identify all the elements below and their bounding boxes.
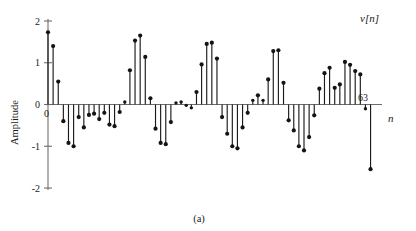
stem-marker: [194, 90, 198, 94]
stem-marker: [87, 113, 91, 117]
figure-caption: (a): [193, 213, 205, 225]
x-axis-label: n: [388, 112, 394, 124]
stem-plot-svg: 210-1-2 Amplitude n v[n] 0 63 (a): [0, 0, 416, 231]
stem-marker: [185, 104, 188, 107]
stem-marker: [205, 42, 209, 46]
stem-marker: [333, 86, 337, 90]
stem-marker: [368, 167, 372, 171]
stem-marker: [107, 122, 111, 126]
stem-marker: [112, 124, 116, 128]
stem-marker: [128, 68, 132, 72]
y-axis-label: Amplitude: [9, 100, 20, 145]
stem-marker: [164, 142, 168, 146]
stem-marker: [256, 93, 260, 97]
stem-marker: [97, 117, 101, 121]
stem-marker: [102, 111, 106, 115]
stem-marker: [220, 115, 224, 119]
stem-marker: [261, 99, 264, 102]
stem-marker: [133, 39, 137, 43]
stem-marker: [92, 112, 96, 116]
stem-marker: [317, 87, 321, 91]
stem-marker: [56, 79, 60, 83]
stem-marker: [169, 120, 173, 124]
stem-marker: [292, 128, 296, 132]
stems-group: [46, 30, 373, 171]
stem-marker: [271, 49, 275, 53]
stem-marker: [338, 82, 342, 86]
stem-marker: [266, 77, 270, 81]
stem-marker: [353, 69, 357, 73]
stem-marker: [200, 62, 204, 66]
stem-marker: [77, 115, 81, 119]
stem-marker: [297, 144, 301, 148]
stem-marker: [159, 141, 163, 145]
y-axis-tick-label: -1: [32, 141, 40, 152]
stem-marker: [215, 56, 219, 60]
stem-plot-figure: 210-1-2 Amplitude n v[n] 0 63 (a): [0, 0, 416, 231]
stem-marker: [230, 144, 234, 148]
signal-name-label: v[n]: [360, 12, 379, 24]
stem-marker: [82, 125, 86, 129]
y-axis-tick-label: 1: [35, 57, 40, 68]
y-axis-tick-label: 2: [35, 16, 40, 27]
stem-marker: [210, 41, 214, 45]
stem-marker: [118, 110, 122, 114]
stem-marker: [123, 100, 126, 103]
x-end-tick-label: 63: [358, 92, 368, 103]
stem-marker: [287, 118, 291, 122]
stem-marker: [179, 100, 182, 103]
y-axis-tick-label: -2: [32, 183, 40, 194]
stem-marker: [225, 132, 229, 136]
stem-marker: [276, 48, 280, 52]
stem-marker: [235, 146, 239, 150]
stem-marker: [143, 55, 147, 59]
stem-marker: [190, 106, 193, 109]
stem-marker: [281, 81, 285, 85]
stem-marker: [174, 101, 177, 104]
stem-marker: [46, 30, 50, 34]
stem-marker: [66, 141, 70, 145]
stem-marker: [240, 125, 244, 129]
labels-group: Amplitude n v[n] 0 63 (a): [9, 12, 394, 225]
stem-marker: [61, 119, 65, 123]
stem-marker: [364, 107, 367, 110]
stem-marker: [302, 148, 306, 152]
stem-marker: [138, 34, 142, 38]
stem-marker: [148, 96, 152, 100]
stem-marker: [358, 72, 362, 76]
stem-marker: [72, 144, 76, 148]
stem-marker: [343, 60, 347, 64]
stem-marker: [51, 44, 55, 48]
stem-marker: [153, 127, 157, 131]
x-origin-tick-label: 0: [44, 108, 49, 119]
stem-marker: [348, 63, 352, 67]
stem-marker: [251, 99, 254, 102]
stem-marker: [312, 113, 316, 117]
y-axis-tick-label: 0: [35, 99, 40, 110]
stem-marker: [246, 111, 250, 115]
stem-marker: [307, 135, 311, 139]
stem-marker: [328, 66, 332, 70]
stem-marker: [322, 71, 326, 75]
